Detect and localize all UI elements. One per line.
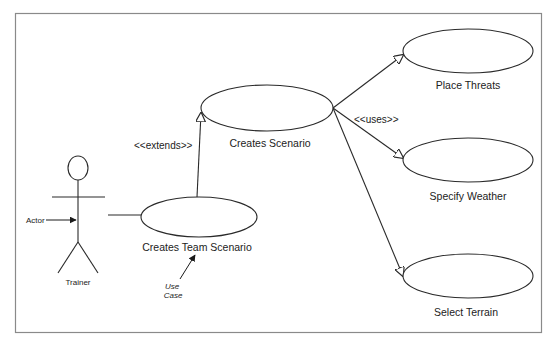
use-case-ellipse <box>201 85 333 131</box>
use-case-diagram: Trainer Actor <<extends>> <<uses>> Creat… <box>0 0 554 346</box>
use-case-label: Place Threats <box>436 79 501 91</box>
actor-name: Trainer <box>65 278 90 287</box>
use-case-label: Creates Team Scenario <box>142 241 252 253</box>
use-case-annotation-line2: Case <box>164 291 183 300</box>
use-case-ellipse <box>403 138 533 182</box>
use-case-ellipse <box>141 197 257 237</box>
actor-annotation: Actor <box>26 216 45 225</box>
use-case-annotation-line1: Use <box>165 282 180 291</box>
use-case-label: Select Terrain <box>434 306 498 318</box>
use-case-label: Specify Weather <box>430 190 507 202</box>
use-case-ellipse <box>403 29 533 73</box>
use-case-ellipse <box>403 254 533 298</box>
extends-label: <<extends>> <box>134 140 193 151</box>
uses-label: <<uses>> <box>354 114 399 125</box>
use-case-creates-team-scenario[interactable]: Creates Team Scenario <box>141 197 257 253</box>
use-case-label: Creates Scenario <box>229 137 310 149</box>
